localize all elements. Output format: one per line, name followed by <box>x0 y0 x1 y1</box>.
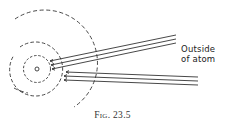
middle-orbit <box>20 42 63 96</box>
ray-line <box>50 35 176 61</box>
caption-text: Fig. 23.5 <box>94 110 131 120</box>
nucleus <box>35 67 39 71</box>
ray-line <box>66 72 198 77</box>
ray-line <box>64 76 198 81</box>
outer-orbit-lower-left <box>14 88 28 93</box>
ray-line <box>64 80 198 85</box>
figure-caption: Fig. 23.5 <box>0 110 225 120</box>
label-line-2: of atom <box>181 55 215 65</box>
ray-line <box>51 39 176 65</box>
middle-orbit-left <box>10 55 20 91</box>
ray-line <box>52 43 176 69</box>
inner-orbit <box>24 56 51 83</box>
lower-ray-bundle <box>64 71 198 85</box>
upper-ray-bundle <box>50 35 176 70</box>
outside-of-atom-label: Outside of atom <box>181 45 215 64</box>
